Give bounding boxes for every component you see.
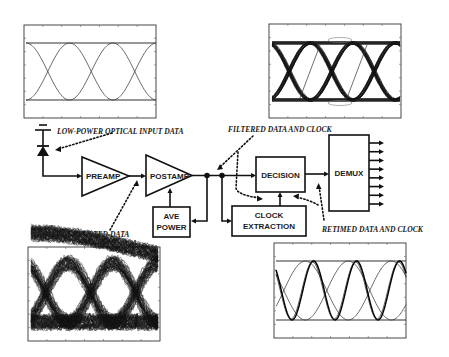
- demux-output-arrow: [379, 202, 384, 207]
- noise-annotation: NOISE CORRUPTED DATA: [36, 230, 129, 239]
- eye-frame: [274, 243, 406, 338]
- clock-extraction-block: CLOCK EXTRACTION: [232, 206, 306, 236]
- demux-label: DEMUX: [335, 169, 365, 178]
- demux-output-arrow: [379, 149, 384, 154]
- demux-output-arrow: [379, 175, 384, 180]
- ave-power-input-arrow: [191, 219, 196, 224]
- filtered-pointer-head-2: [257, 196, 263, 202]
- retimed-eye-diagram: [274, 243, 406, 338]
- retimed-pointer-2: [296, 197, 318, 205]
- decision-label: DECISION: [261, 171, 300, 180]
- noise-pointer-head: [134, 180, 140, 186]
- input-annotation: LOW-POWER OPTICAL INPUT DATA: [56, 127, 184, 136]
- retimed-pointer-head-1: [316, 183, 322, 189]
- postamp-block: POSTAMP: [146, 155, 192, 196]
- demux-output-arrow: [379, 158, 384, 163]
- demux-outputs: [369, 141, 384, 207]
- filtered-annotation: FILTERED DATA AND CLOCK: [228, 125, 333, 134]
- postamp-bias-arrow: [168, 188, 173, 193]
- receiver-diagram: PREAMP POSTAMP AVE POWER DECISION CLOCK …: [0, 0, 449, 357]
- demux-output-arrow: [379, 184, 384, 189]
- filtered-pointer-1: [220, 136, 253, 167]
- noise-eye-diagram: [28, 224, 160, 341]
- ave-power-label-line2: POWER: [156, 223, 186, 232]
- clock-extraction-label-line2: EXTRACTION: [243, 222, 295, 231]
- diode-to-preamp-wire: [43, 156, 80, 176]
- demux-output-arrow: [379, 193, 384, 198]
- demux-output-arrow: [379, 167, 384, 172]
- postamp-label: POSTAMP: [150, 172, 190, 181]
- eye-frame: [24, 25, 156, 118]
- input-eye-diagram: [24, 25, 156, 118]
- input-pointer-head: [55, 146, 61, 152]
- filtered-pointer-head-1: [217, 164, 223, 170]
- preamp-label: PREAMP: [86, 172, 121, 181]
- filtered-eye-diagram: [269, 24, 401, 118]
- decision-block: DECISION: [256, 157, 305, 192]
- demux-block: DEMUX: [329, 135, 369, 211]
- diode-triangle: [37, 146, 49, 156]
- demux-output-arrow: [379, 141, 384, 146]
- retimed-pointer-head-2: [293, 194, 299, 200]
- retimed-pointer-1: [319, 186, 324, 220]
- noise-annotation-pointer: [110, 183, 136, 230]
- feedback-to-ave-power-wire: [193, 176, 207, 222]
- ave-power-block: AVE POWER: [153, 207, 190, 237]
- preamp-block: PREAMP: [82, 157, 129, 196]
- ave-power-label-line1: AVE: [164, 212, 181, 221]
- to-clock-extraction-wire: [222, 176, 229, 222]
- clock-extraction-label-line1: CLOCK: [255, 211, 284, 220]
- retimed-annotation: RETIMED DATA AND CLOCK: [321, 225, 424, 234]
